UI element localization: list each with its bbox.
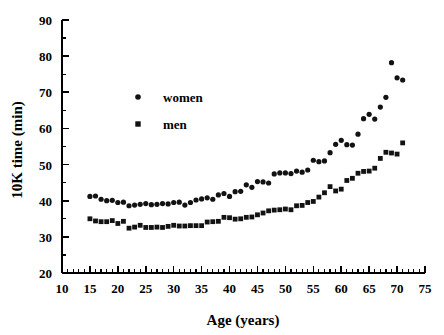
data-point-men xyxy=(99,219,104,224)
data-point-women xyxy=(283,170,288,175)
data-point-men xyxy=(138,223,143,228)
data-point-women xyxy=(87,194,92,199)
x-tick-label: 10 xyxy=(56,281,69,296)
data-point-men xyxy=(115,221,120,226)
data-point-women xyxy=(288,171,293,176)
y-tick-label: 60 xyxy=(39,121,52,136)
data-point-men xyxy=(182,224,187,229)
data-point-men xyxy=(350,176,355,181)
data-point-women xyxy=(339,138,344,143)
data-point-women xyxy=(177,200,182,205)
x-tick-label: 40 xyxy=(223,281,236,296)
x-tick-label: 15 xyxy=(83,281,97,296)
data-point-men xyxy=(149,225,154,230)
data-point-women xyxy=(104,198,109,203)
data-point-men xyxy=(199,223,204,228)
data-point-men xyxy=(322,190,327,195)
data-point-women xyxy=(210,197,215,202)
y-tick-label: 70 xyxy=(39,85,52,100)
data-point-men xyxy=(132,225,137,230)
data-point-women xyxy=(216,192,221,197)
data-point-men xyxy=(238,216,243,221)
data-point-men xyxy=(294,203,299,208)
data-point-men xyxy=(389,151,394,156)
x-tick-label: 50 xyxy=(279,281,292,296)
y-tick-label: 30 xyxy=(39,230,52,245)
tick-labels-layer: 1015202530354045505560657075203040506070… xyxy=(39,13,432,296)
data-point-women xyxy=(355,132,360,137)
data-point-women xyxy=(344,142,349,147)
x-tick-label: 65 xyxy=(363,281,377,296)
data-point-men xyxy=(378,156,383,161)
data-point-women xyxy=(160,201,165,206)
data-point-men xyxy=(300,203,305,208)
data-point-women xyxy=(266,180,271,185)
data-point-men xyxy=(104,219,109,224)
data-point-men xyxy=(311,199,316,204)
data-point-women xyxy=(322,158,327,163)
data-point-men xyxy=(244,215,249,220)
data-point-men xyxy=(205,220,210,225)
data-point-men xyxy=(210,219,215,224)
data-point-men xyxy=(305,200,310,205)
data-point-men xyxy=(384,150,389,155)
x-tick-label: 45 xyxy=(251,281,265,296)
data-point-men xyxy=(194,223,199,228)
ticks-layer xyxy=(62,20,425,273)
data-point-men xyxy=(166,224,171,229)
data-point-men xyxy=(216,219,221,224)
data-point-women xyxy=(238,189,243,194)
data-point-men xyxy=(143,225,148,230)
legend-marker-men xyxy=(135,121,140,126)
data-point-women xyxy=(199,196,204,201)
data-point-women xyxy=(126,203,131,208)
x-tick-label: 55 xyxy=(307,281,321,296)
data-point-women xyxy=(193,197,198,202)
x-tick-label: 20 xyxy=(111,281,124,296)
data-point-men xyxy=(160,225,165,230)
data-point-men xyxy=(333,189,338,194)
data-point-women xyxy=(205,195,210,200)
data-point-men xyxy=(177,224,182,229)
data-point-women xyxy=(272,171,277,176)
data-point-men xyxy=(249,215,254,220)
data-point-men xyxy=(266,208,271,213)
data-point-men xyxy=(222,215,227,220)
data-point-women xyxy=(166,201,171,206)
data-point-women xyxy=(394,75,399,80)
data-point-women xyxy=(372,116,377,121)
data-point-men xyxy=(344,178,349,183)
y-tick-label: 40 xyxy=(39,194,52,209)
data-point-women xyxy=(300,170,305,175)
data-point-men xyxy=(110,218,115,223)
data-point-men xyxy=(367,169,372,174)
data-point-men xyxy=(155,225,160,230)
data-point-men xyxy=(227,215,232,220)
data-point-women xyxy=(98,197,103,202)
data-point-men xyxy=(316,195,321,200)
data-point-women xyxy=(389,60,394,65)
x-tick-label: 35 xyxy=(195,281,209,296)
data-point-women xyxy=(188,200,193,205)
data-point-women xyxy=(400,77,405,82)
data-point-men xyxy=(121,219,126,224)
data-point-women xyxy=(277,170,282,175)
data-point-women xyxy=(333,142,338,147)
data-point-women xyxy=(367,112,372,117)
data-point-men xyxy=(361,169,366,174)
x-tick-label: 30 xyxy=(167,281,180,296)
x-tick-label: 70 xyxy=(391,281,404,296)
y-tick-label: 20 xyxy=(39,266,52,281)
data-point-women xyxy=(132,202,137,207)
data-point-women xyxy=(327,150,332,155)
data-point-men xyxy=(356,171,361,176)
data-point-women xyxy=(350,142,355,147)
data-point-women xyxy=(294,168,299,173)
y-axis-title: 10K time (min) xyxy=(9,101,26,198)
data-point-men xyxy=(188,223,193,228)
data-point-women xyxy=(121,200,126,205)
data-point-women xyxy=(143,201,148,206)
data-point-men xyxy=(400,140,405,145)
x-tick-label: 60 xyxy=(335,281,348,296)
data-point-men xyxy=(395,152,400,157)
